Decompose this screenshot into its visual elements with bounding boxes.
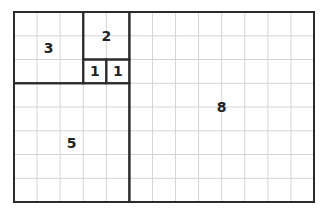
fibonacci-diagram: 321158 bbox=[0, 0, 321, 214]
square-label: 5 bbox=[67, 135, 77, 151]
square-1: 1 bbox=[83, 60, 106, 84]
square-3: 3 bbox=[14, 12, 83, 83]
square-label: 8 bbox=[217, 99, 227, 115]
square-1: 1 bbox=[106, 60, 129, 84]
square-label: 3 bbox=[44, 40, 54, 56]
square-5: 5 bbox=[14, 83, 129, 202]
square-label: 1 bbox=[90, 63, 100, 79]
grid-lines bbox=[14, 12, 314, 202]
square-label: 2 bbox=[101, 28, 111, 44]
square-label: 1 bbox=[113, 63, 123, 79]
